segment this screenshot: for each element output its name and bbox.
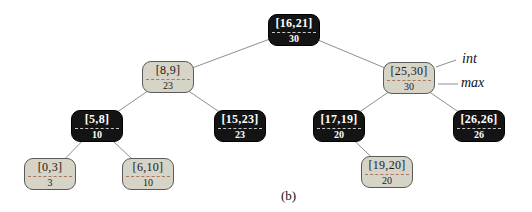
node-interval: [0,3]	[25, 159, 75, 176]
node-interval: [19,20]	[362, 157, 412, 174]
int-label-pointer-line	[436, 60, 456, 67]
int-label: int	[462, 52, 477, 66]
node-interval: [25,30]	[384, 63, 434, 80]
node-max: 20	[317, 128, 361, 141]
tree-node-0-3: [0,3]3	[24, 158, 76, 190]
node-max: 23	[146, 79, 190, 92]
node-interval: [6,10]	[123, 159, 173, 176]
node-interval: [16,21]	[269, 15, 319, 32]
node-interval: [26,26]	[454, 111, 504, 128]
tree-node-6-10: [6,10]10	[122, 158, 174, 190]
node-interval: [5,8]	[72, 111, 122, 128]
node-max: 30	[387, 80, 431, 93]
tree-node-8-9: [8,9]23	[142, 61, 194, 93]
node-interval: [8,9]	[143, 62, 193, 79]
tree-node-5-8: [5,8]10	[71, 110, 123, 142]
node-max: 20	[365, 174, 409, 187]
tree-edges-svg	[0, 0, 532, 212]
node-max: 3	[28, 176, 72, 189]
node-interval: [17,19]	[314, 111, 364, 128]
tree-node-26-26: [26,26]26	[453, 110, 505, 142]
node-interval: [15,23]	[215, 111, 265, 128]
figure-caption: (b)	[281, 188, 296, 204]
node-max: 10	[75, 128, 119, 141]
node-max: 26	[457, 128, 501, 141]
tree-node-25-30: [25,30]30	[383, 62, 435, 94]
node-max: 10	[126, 176, 170, 189]
tree-node-16-21: [16,21]30	[268, 14, 320, 46]
node-max: 23	[218, 128, 262, 141]
tree-node-15-23: [15,23]23	[214, 110, 266, 142]
interval-tree-figure: [16,21]30[8,9]23[25,30]30[5,8]10[15,23]2…	[0, 0, 532, 212]
tree-node-17-19: [17,19]20	[313, 110, 365, 142]
node-max: 30	[272, 32, 316, 45]
tree-node-19-20: [19,20]20	[361, 156, 413, 188]
max-label: max	[461, 76, 484, 90]
